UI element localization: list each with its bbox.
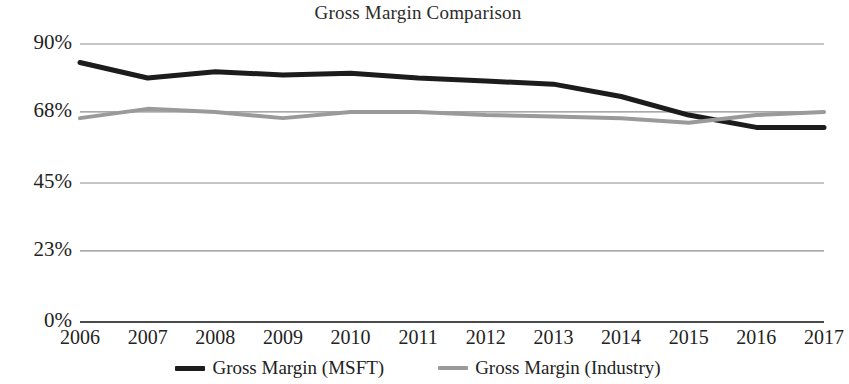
legend-line-swatch-icon	[175, 366, 205, 371]
data-series-lines	[80, 63, 824, 128]
legend-item[interactable]: Gross Margin (Industry)	[438, 357, 660, 379]
y-axis-tick-label: 90%	[2, 32, 72, 53]
y-axis-tick-label: 23%	[2, 239, 72, 260]
legend-item-label: Gross Margin (MSFT)	[212, 357, 384, 379]
x-axis-tick-label: 2014	[589, 327, 653, 347]
x-axis-tick-label: 2016	[724, 327, 788, 347]
x-axis-tick-label: 2007	[116, 327, 180, 347]
x-axis-tick-label: 2017	[792, 327, 849, 347]
x-axis-tick-label: 2009	[251, 327, 315, 347]
gridlines	[80, 44, 824, 322]
x-axis-tick-label: 2006	[48, 327, 112, 347]
y-axis-tick-label: 45%	[2, 171, 72, 192]
x-axis-tick-label: 2015	[657, 327, 721, 347]
series-line-1	[80, 63, 824, 128]
y-axis-tick-label: 68%	[2, 100, 72, 121]
series-line-2	[80, 109, 824, 123]
x-axis-tick-label: 2012	[454, 327, 518, 347]
x-axis-tick-label: 2011	[386, 327, 450, 347]
chart-legend: Gross Margin (MSFT)Gross Margin (Industr…	[0, 357, 836, 379]
x-axis-tick-label: 2010	[319, 327, 383, 347]
legend-item[interactable]: Gross Margin (MSFT)	[175, 357, 384, 379]
legend-item-label: Gross Margin (Industry)	[475, 357, 660, 379]
legend-line-swatch-icon	[438, 366, 468, 370]
x-axis-tick-label: 2008	[183, 327, 247, 347]
x-axis-tick-label: 2013	[521, 327, 585, 347]
